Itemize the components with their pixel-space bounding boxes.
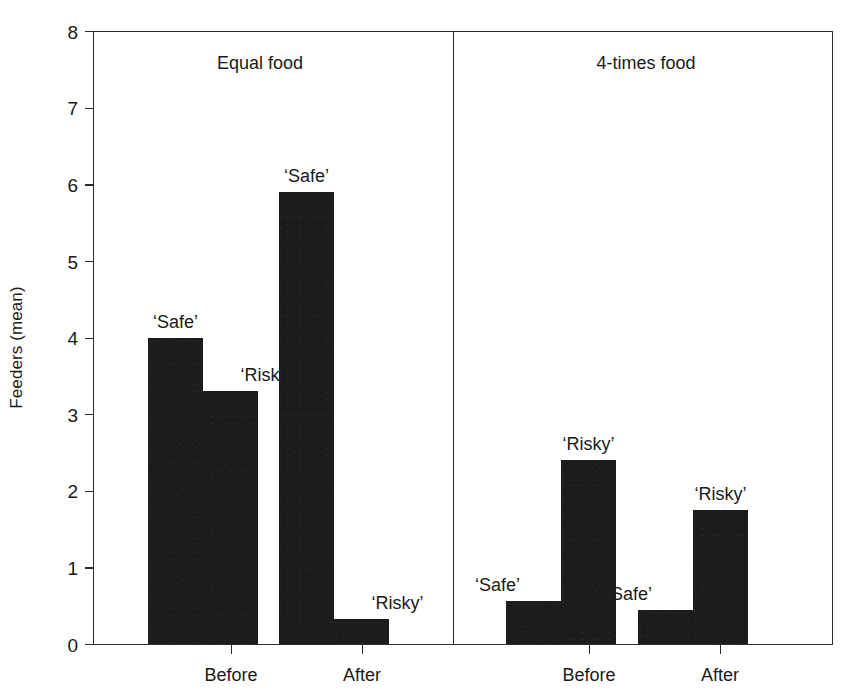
bar: [148, 338, 203, 645]
bar-label: ‘Safe’: [475, 575, 520, 596]
y-axis-line: [93, 31, 94, 645]
bar: [638, 610, 693, 644]
plot-top-border: [93, 31, 833, 32]
plot-right-border: [832, 31, 833, 645]
panel-divider: [453, 31, 454, 645]
y-tick: 0: [85, 644, 93, 645]
chart-figure: Feeders (mean) 012345678 BeforeAfterBefo…: [0, 0, 858, 695]
x-tick-label: Before: [204, 665, 257, 686]
y-tick-label: 7: [67, 99, 78, 118]
x-tick: [589, 645, 590, 654]
y-tick-label: 1: [67, 559, 78, 578]
bar: [561, 460, 616, 644]
y-tick: 3: [85, 414, 93, 415]
bar: [279, 192, 334, 644]
y-tick: 4: [85, 338, 93, 339]
y-tick: 2: [85, 491, 93, 492]
bar-label: ‘Safe’: [607, 584, 652, 605]
bar-label: ‘Safe’: [153, 312, 198, 333]
bar: [203, 391, 258, 644]
y-tick: 1: [85, 567, 93, 568]
x-tick: [720, 645, 721, 654]
x-tick-label: After: [343, 665, 381, 686]
bar-label: ‘Risky’: [563, 434, 615, 455]
bar: [334, 619, 389, 644]
x-tick-label: After: [701, 665, 739, 686]
x-tick-label: Before: [562, 665, 615, 686]
bar-label: ‘Risky’: [372, 593, 424, 614]
bar-label: ‘Safe’: [284, 166, 329, 187]
panel-title: 4-times food: [596, 53, 695, 74]
y-tick-label: 4: [67, 329, 78, 348]
y-tick-label: 5: [67, 252, 78, 271]
bar: [506, 601, 561, 644]
panel-title: Equal food: [217, 53, 303, 74]
x-tick: [231, 645, 232, 654]
x-tick: [362, 645, 363, 654]
bar-label: ‘Risky’: [695, 484, 747, 505]
y-axis-title: Feeders (mean): [0, 0, 34, 695]
y-tick-label: 8: [67, 22, 78, 41]
y-tick-label: 2: [67, 482, 78, 501]
bar: [693, 510, 748, 644]
plot-area: 012345678 BeforeAfterBeforeAfter Equal f…: [93, 31, 833, 645]
y-tick-label: 6: [67, 175, 78, 194]
y-tick: 6: [85, 184, 93, 185]
y-tick-label: 3: [67, 405, 78, 424]
y-tick: 5: [85, 261, 93, 262]
y-tick-label: 0: [67, 635, 78, 654]
y-tick: 7: [85, 108, 93, 109]
y-tick: 8: [85, 31, 93, 32]
x-axis-line: [93, 644, 833, 645]
